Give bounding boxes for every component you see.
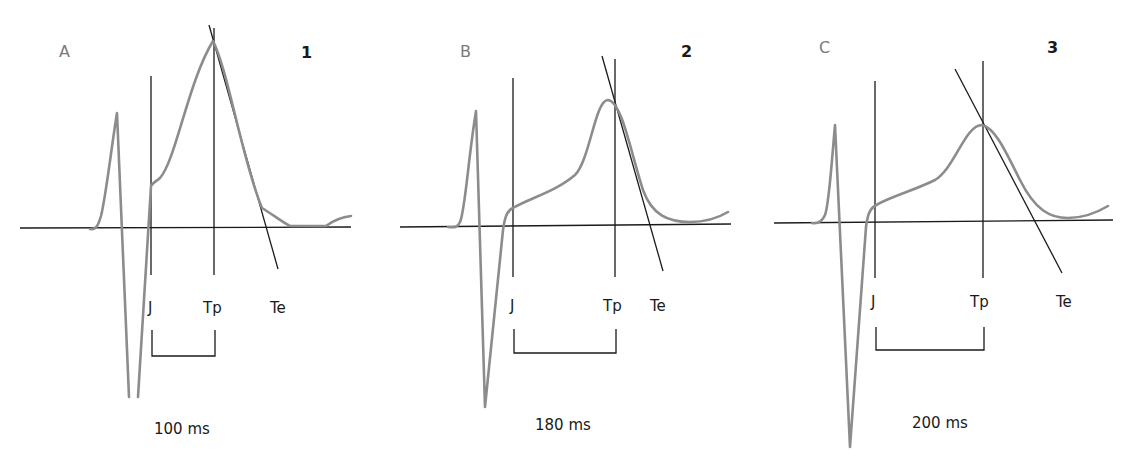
panel-letter: A <box>59 42 70 61</box>
panel-letter: B <box>460 42 471 61</box>
te-label: Te <box>1055 293 1072 311</box>
panel-a: A 1 J Tp Te 100 ms <box>20 25 351 438</box>
te-label: Te <box>269 299 286 317</box>
te-label: Te <box>649 297 666 315</box>
interval-bracket <box>876 327 984 350</box>
j-label: J <box>509 297 514 315</box>
panel-letter: C <box>819 38 830 57</box>
tp-label: Tp <box>202 299 222 317</box>
tangent-line <box>955 69 1062 273</box>
ecg-waveform <box>812 125 1108 447</box>
j-label: J <box>870 293 875 311</box>
j-label: J <box>147 299 152 317</box>
ecg-figure: A 1 J Tp Te 100 ms B 2 J Tp Te 180 ms <box>0 0 1130 472</box>
panel-number: 2 <box>681 42 692 61</box>
interval-bracket <box>152 330 215 356</box>
tangent-line <box>602 56 663 271</box>
interval-bracket <box>514 329 616 353</box>
panel-b: B 2 J Tp Te 180 ms <box>400 42 731 434</box>
panel-c: C 3 J Tp Te 200 ms <box>774 38 1113 447</box>
interval-duration: 180 ms <box>535 416 591 434</box>
tp-label: Tp <box>969 293 989 311</box>
ecg-waveform <box>90 41 351 397</box>
panel-number: 3 <box>1047 38 1058 57</box>
baseline <box>774 220 1113 223</box>
tp-label: Tp <box>602 297 622 315</box>
interval-duration: 100 ms <box>154 420 210 438</box>
interval-duration: 200 ms <box>912 414 968 432</box>
panel-number: 1 <box>301 43 312 62</box>
ecg-waveform <box>448 100 728 407</box>
